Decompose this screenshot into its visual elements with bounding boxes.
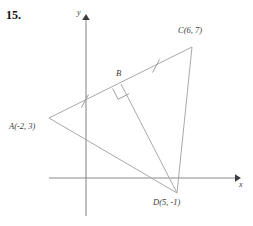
x-axis-label: x [239, 180, 243, 189]
geometry-figure-panel: 15. A(-2, 3) B C(6, 7) D(5, -1) x y [0, 0, 253, 226]
point-label-C: C(6, 7) [178, 25, 202, 35]
coordinate-plane-svg [0, 0, 253, 226]
segment-AC [49, 47, 192, 118]
segment-CD [177, 47, 192, 193]
point-label-A: A(-2, 3) [9, 121, 35, 131]
y-axis-label: y [77, 8, 81, 17]
point-label-D: D(5, -1) [153, 197, 180, 207]
y-axis-arrowhead [82, 14, 90, 20]
point-label-B: B [116, 68, 121, 78]
